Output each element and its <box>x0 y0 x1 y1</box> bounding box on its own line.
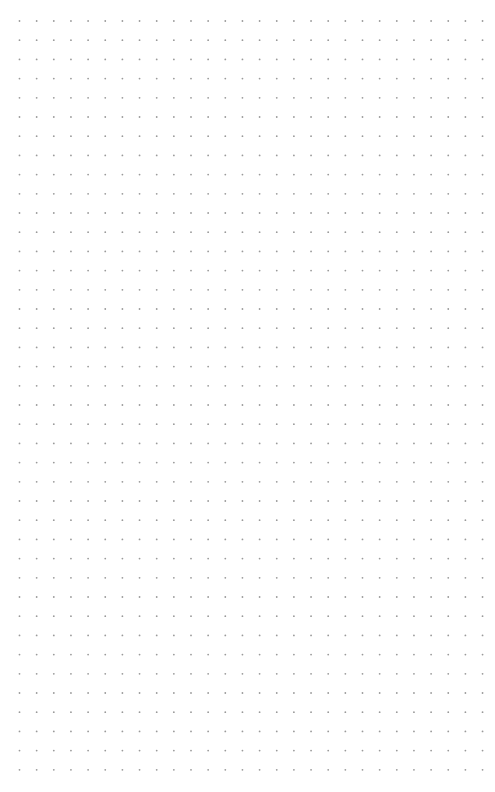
grid-dot <box>465 78 467 80</box>
grid-dot <box>224 155 226 157</box>
grid-dot <box>190 97 192 99</box>
grid-dot <box>482 654 484 656</box>
grid-dot <box>104 155 106 157</box>
grid-dot <box>36 750 38 752</box>
grid-dot <box>482 519 484 521</box>
grid-dot <box>413 769 415 771</box>
grid-dot <box>293 270 295 272</box>
grid-dot <box>242 443 244 445</box>
grid-dot <box>276 577 278 579</box>
grid-dot <box>276 711 278 713</box>
grid-dot <box>70 231 72 233</box>
grid-dot <box>327 500 329 502</box>
grid-dot <box>173 59 175 61</box>
grid-dot <box>276 308 278 310</box>
grid-dot <box>430 443 432 445</box>
grid-dot <box>242 539 244 541</box>
grid-dot <box>242 97 244 99</box>
grid-dot <box>224 692 226 694</box>
grid-dot <box>482 711 484 713</box>
grid-dot <box>36 59 38 61</box>
grid-dot <box>190 327 192 329</box>
grid-dot <box>362 193 364 195</box>
grid-dot <box>293 443 295 445</box>
grid-dot <box>482 596 484 598</box>
grid-dot <box>362 135 364 137</box>
grid-dot <box>242 692 244 694</box>
grid-dot <box>310 251 312 253</box>
grid-dot <box>173 635 175 637</box>
grid-dot <box>276 558 278 560</box>
grid-dot <box>122 769 124 771</box>
grid-dot <box>396 731 398 733</box>
grid-dot <box>122 116 124 118</box>
grid-dot <box>173 270 175 272</box>
grid-dot <box>207 78 209 80</box>
grid-dot <box>207 539 209 541</box>
grid-dot <box>276 385 278 387</box>
grid-dot <box>327 20 329 22</box>
grid-dot <box>70 462 72 464</box>
grid-dot <box>19 289 21 291</box>
grid-dot <box>310 692 312 694</box>
grid-dot <box>344 59 346 61</box>
grid-dot <box>70 155 72 157</box>
grid-dot <box>482 59 484 61</box>
grid-dot <box>482 20 484 22</box>
grid-dot <box>104 97 106 99</box>
grid-dot <box>242 615 244 617</box>
grid-dot <box>53 289 55 291</box>
grid-dot <box>379 327 381 329</box>
grid-dot <box>413 731 415 733</box>
grid-dot <box>19 673 21 675</box>
grid-dot <box>276 135 278 137</box>
grid-dot <box>259 174 261 176</box>
grid-dot <box>293 39 295 41</box>
grid-dot <box>310 750 312 752</box>
grid-dot <box>310 20 312 22</box>
dot-grid-page <box>0 0 495 792</box>
grid-dot <box>207 673 209 675</box>
dot-grid <box>0 0 495 792</box>
grid-dot <box>70 635 72 637</box>
grid-dot <box>53 193 55 195</box>
grid-dot <box>396 78 398 80</box>
grid-dot <box>447 116 449 118</box>
grid-dot <box>36 20 38 22</box>
grid-dot <box>447 251 449 253</box>
grid-dot <box>104 692 106 694</box>
grid-dot <box>36 692 38 694</box>
grid-dot <box>224 212 226 214</box>
grid-dot <box>310 500 312 502</box>
grid-dot <box>447 577 449 579</box>
grid-dot <box>207 97 209 99</box>
grid-dot <box>430 635 432 637</box>
grid-dot <box>396 135 398 137</box>
grid-dot <box>53 750 55 752</box>
grid-dot <box>327 289 329 291</box>
grid-dot <box>53 231 55 233</box>
grid-dot <box>482 443 484 445</box>
grid-dot <box>413 97 415 99</box>
grid-dot <box>104 193 106 195</box>
grid-dot <box>362 39 364 41</box>
grid-dot <box>310 327 312 329</box>
grid-dot <box>430 347 432 349</box>
grid-dot <box>465 135 467 137</box>
grid-dot <box>276 462 278 464</box>
grid-dot <box>396 59 398 61</box>
grid-dot <box>173 231 175 233</box>
grid-dot <box>173 174 175 176</box>
grid-dot <box>156 654 158 656</box>
grid-dot <box>242 481 244 483</box>
grid-dot <box>259 231 261 233</box>
grid-dot <box>482 97 484 99</box>
grid-dot <box>344 615 346 617</box>
grid-dot <box>122 404 124 406</box>
grid-dot <box>447 404 449 406</box>
grid-dot <box>447 711 449 713</box>
grid-dot <box>344 347 346 349</box>
grid-dot <box>465 347 467 349</box>
grid-dot <box>310 731 312 733</box>
grid-dot <box>224 174 226 176</box>
